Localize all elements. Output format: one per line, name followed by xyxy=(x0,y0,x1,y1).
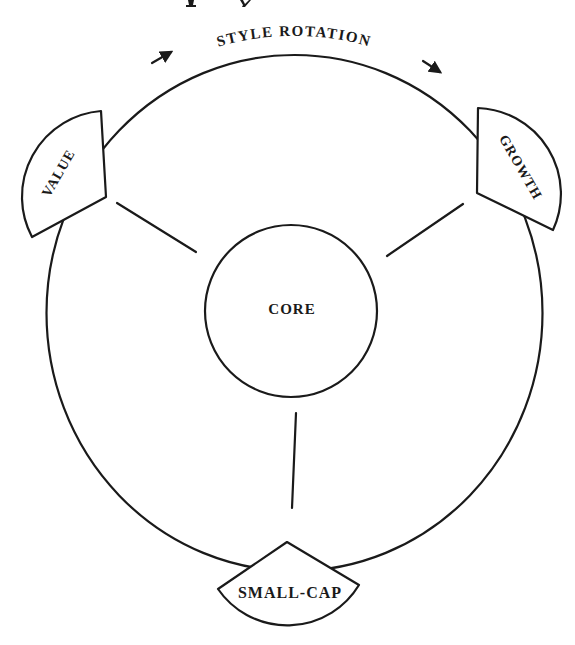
connector-core-growth xyxy=(387,204,463,256)
small-cap-node: SMALL-CAP xyxy=(218,542,359,625)
style-rotation-diagram: STYLE ROTATION CORE VALUE GROWTH SMALL-C… xyxy=(0,0,575,645)
cropped-title-fragments xyxy=(186,0,251,7)
value-node: VALUE xyxy=(22,111,106,237)
style-rotation-title: STYLE ROTATION xyxy=(215,23,373,50)
core-label: CORE xyxy=(268,301,315,317)
small-cap-label: SMALL-CAP xyxy=(238,584,342,601)
arrow-up-right-icon xyxy=(152,52,171,63)
style-rotation-title-text: STYLE ROTATION xyxy=(215,23,373,50)
connector-core-small-cap xyxy=(292,413,296,508)
connector-core-value xyxy=(117,203,196,252)
growth-node: GROWTH xyxy=(477,108,561,230)
arrow-down-right-icon xyxy=(423,61,440,72)
core-node: CORE xyxy=(205,225,377,397)
